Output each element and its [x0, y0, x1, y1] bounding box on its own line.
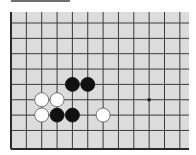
black-stone: [65, 108, 79, 122]
black-stone: [81, 77, 95, 91]
star-point: [147, 98, 151, 102]
black-stone: [50, 108, 64, 122]
go-board: [0, 0, 196, 155]
white-stone: [35, 108, 49, 122]
white-stone: [96, 108, 110, 122]
white-stone: [50, 93, 64, 107]
star-points: [147, 98, 151, 102]
black-stone: [65, 77, 79, 91]
board-background: [10, 12, 189, 150]
white-stone: [35, 93, 49, 107]
